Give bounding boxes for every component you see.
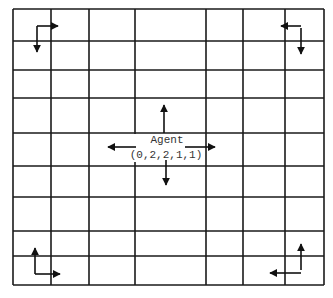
agent: Agent (0,2,2,1,1) bbox=[108, 105, 215, 185]
agent-label: Agent bbox=[150, 134, 183, 146]
corner-marker-bottom-left bbox=[35, 248, 60, 274]
corner-marker-top-left bbox=[37, 26, 58, 52]
agent-state: (0,2,2,1,1) bbox=[130, 149, 203, 161]
grid-world-diagram: Agent (0,2,2,1,1) bbox=[0, 0, 333, 298]
corner-marker-top-right bbox=[281, 26, 301, 54]
